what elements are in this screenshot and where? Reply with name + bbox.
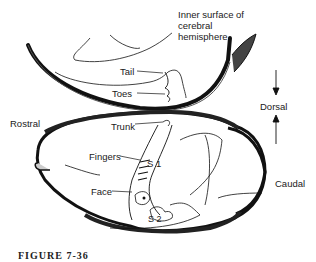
label-tail: Tail bbox=[120, 66, 134, 77]
label-s2: S 2 bbox=[148, 214, 162, 225]
label-s1: S 1 bbox=[147, 158, 161, 169]
upper-hemisphere bbox=[28, 33, 256, 111]
arrow-down-icon bbox=[273, 88, 279, 95]
label-rostral: Rostral bbox=[10, 118, 40, 129]
label-inner-surface-line3: hemisphere bbox=[178, 31, 228, 42]
label-fingers: Fingers bbox=[89, 151, 121, 162]
label-caudal: Caudal bbox=[275, 178, 305, 189]
label-trunk: Trunk bbox=[111, 121, 135, 132]
label-face: Face bbox=[91, 186, 112, 197]
label-inner-surface-line1: Inner surface of bbox=[178, 9, 244, 20]
arrow-up-icon bbox=[273, 115, 279, 122]
label-inner-surface-line2: cerebral bbox=[178, 20, 212, 31]
figure-caption: FIGURE 7-36 bbox=[18, 250, 89, 261]
label-dorsal: Dorsal bbox=[260, 101, 287, 112]
label-toes: Toes bbox=[112, 88, 132, 99]
